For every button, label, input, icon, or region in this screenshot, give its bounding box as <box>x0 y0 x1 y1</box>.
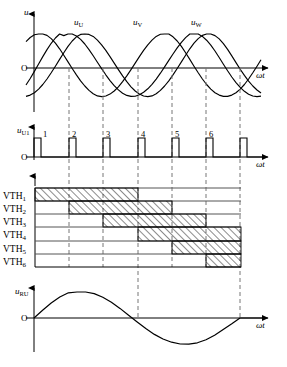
rectifier-timing-figure: uU uV uW u O ωt uU1 O <box>0 0 287 367</box>
conduction-label-vth6: VTH6 <box>3 257 27 269</box>
output-origin-label: O <box>21 313 28 323</box>
waveform-uW <box>26 34 261 97</box>
output-x-axis-label: ωt <box>256 320 265 330</box>
phase-y-axis-label: u <box>24 7 29 17</box>
waveform-uV <box>26 34 261 97</box>
waveform-label-uU: uU <box>74 17 84 28</box>
conduction-label-vth5: VTH5 <box>3 244 27 256</box>
conduction-label-vth1: VTH1 <box>3 191 27 203</box>
conduction-bar-vth5 <box>172 241 241 254</box>
phase-x-axis-label: ωt <box>256 70 265 80</box>
gate-y-axis-label: uU1 <box>17 125 29 136</box>
conduction-label-vth4: VTH4 <box>3 230 27 242</box>
pulse-number-6: 6 <box>209 129 213 139</box>
conduction-bar-vth3 <box>103 214 206 227</box>
panel-conduction: VTH1 VTH2 VTH3 VTH4 VTH5 VTH6 <box>3 176 241 269</box>
phase-origin-label: O <box>21 63 28 73</box>
pulse-number-3: 3 <box>106 129 110 139</box>
conduction-bar-vth6 <box>206 254 241 267</box>
gate-pulse-train <box>34 138 262 157</box>
gate-origin-label: O <box>21 152 28 162</box>
waveform-label-uV: uV <box>133 17 143 28</box>
output-y-axis-label: uRU <box>15 286 29 297</box>
panel-gate-pulses: uU1 O ωt 1 2 3 4 5 6 <box>17 125 268 169</box>
conduction-label-vth2: VTH2 <box>3 204 27 216</box>
pulse-number-5: 5 <box>175 129 179 139</box>
panel-phase-voltages: uU uV uW u O ωt <box>21 7 268 112</box>
pulse-number-1: 1 <box>43 129 47 139</box>
timing-diagram-svg: uU uV uW u O ωt uU1 O <box>0 0 287 367</box>
conduction-label-vth3: VTH3 <box>3 217 27 229</box>
panel-output-voltage: uRU O ωt <box>15 286 268 352</box>
pulse-number-2: 2 <box>72 129 76 139</box>
conduction-bar-vth2 <box>69 201 172 214</box>
waveform-uU <box>26 34 261 97</box>
gate-x-axis-label: ωt <box>256 159 265 169</box>
waveform-label-uW: uW <box>191 17 203 28</box>
conduction-bar-vth4 <box>138 227 241 241</box>
conduction-bar-vth1 <box>35 188 138 201</box>
